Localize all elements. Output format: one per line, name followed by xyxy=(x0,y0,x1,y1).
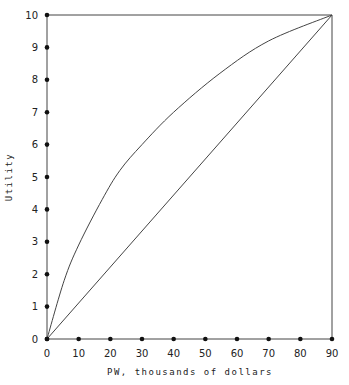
y-tick-label: 4 xyxy=(32,204,38,215)
y-tick-label: 1 xyxy=(32,301,38,312)
x-tick-label: 80 xyxy=(294,348,307,359)
y-tick-marker xyxy=(45,272,50,277)
y-axis-title: Utility xyxy=(4,153,14,201)
y-tick-label: 7 xyxy=(32,107,38,118)
y-tick-marker xyxy=(45,45,50,50)
linear-utility-line xyxy=(47,15,332,339)
x-tick-marker xyxy=(76,337,81,342)
x-tick-marker xyxy=(140,337,145,342)
y-tick-label: 2 xyxy=(32,269,38,280)
x-tick-label: 90 xyxy=(326,348,339,359)
x-tick-marker xyxy=(235,337,240,342)
x-tick-label: 50 xyxy=(199,348,212,359)
y-tick-marker xyxy=(45,304,50,309)
y-tick-label: 9 xyxy=(32,42,38,53)
y-tick-label: 0 xyxy=(32,334,38,345)
x-tick-label: 10 xyxy=(72,348,85,359)
y-tick-marker xyxy=(45,78,50,83)
x-tick-marker xyxy=(108,337,113,342)
y-tick-label: 3 xyxy=(32,236,38,247)
x-tick-label: 20 xyxy=(104,348,117,359)
y-tick-marker xyxy=(45,142,50,147)
y-tick-label: 5 xyxy=(32,172,38,183)
x-axis-title: PW, thousands of dollars xyxy=(107,367,273,377)
x-tick-marker xyxy=(171,337,176,342)
y-tick-label: 8 xyxy=(32,74,38,85)
x-tick-marker xyxy=(266,337,271,342)
x-axis-ticks: 0102030405060708090 xyxy=(44,337,339,359)
utility-chart: 012345678910 0102030405060708090 Utility… xyxy=(0,0,349,385)
plot-series xyxy=(47,15,332,339)
y-tick-marker xyxy=(45,13,50,18)
x-tick-marker xyxy=(298,337,303,342)
x-tick-label: 60 xyxy=(231,348,244,359)
x-tick-label: 30 xyxy=(136,348,149,359)
y-tick-marker xyxy=(45,240,50,245)
x-tick-marker xyxy=(45,337,50,342)
x-tick-label: 40 xyxy=(167,348,180,359)
x-tick-marker xyxy=(203,337,208,342)
y-tick-marker xyxy=(45,175,50,180)
y-tick-label: 10 xyxy=(25,10,38,21)
y-tick-marker xyxy=(45,110,50,115)
x-tick-label: 70 xyxy=(262,348,275,359)
y-axis-ticks: 012345678910 xyxy=(25,10,49,345)
y-tick-label: 6 xyxy=(32,139,38,150)
y-tick-marker xyxy=(45,207,50,212)
x-tick-label: 0 xyxy=(44,348,50,359)
x-tick-marker xyxy=(330,337,335,342)
